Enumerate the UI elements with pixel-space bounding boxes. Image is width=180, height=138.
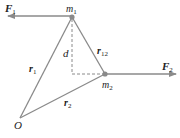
label-f2: F2 [161,60,173,74]
label-m2: m2 [102,79,113,92]
label-origin: O [14,119,22,131]
label-r12: r12 [97,45,108,58]
two-body-diagram: F1 m1 d r12 F2 m2 r1 r2 O [0,0,180,138]
vector-r2 [20,74,105,118]
label-m1: m1 [66,3,77,16]
label-f1: F1 [4,2,16,16]
label-r1: r1 [29,63,37,76]
label-r2: r2 [64,97,72,110]
mass-m2-dot [102,71,107,76]
label-d: d [63,47,69,59]
